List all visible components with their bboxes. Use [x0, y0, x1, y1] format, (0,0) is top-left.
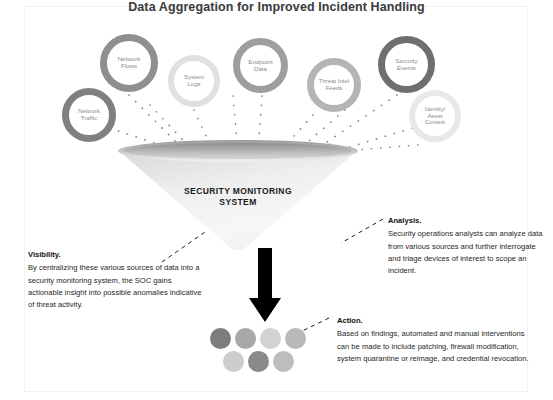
source-label: Endpoint Data	[246, 59, 274, 73]
callout-action-head: Action.	[337, 315, 537, 327]
callout-analysis-body: Security operations analysts can analyze…	[388, 228, 546, 277]
outcome-dot	[210, 328, 231, 349]
callout-action: Action. Based on findings, automated and…	[337, 315, 537, 365]
source-label: Threat Intel Feeds	[317, 78, 351, 91]
source-label: Network Flows	[116, 56, 143, 70]
source-label: Security Events	[393, 58, 419, 72]
funnel-rim-inner	[124, 143, 352, 159]
funnel-rim	[118, 140, 358, 162]
callout-action-body: Based on findings, automated and manual …	[337, 328, 537, 365]
source-circle-security-events[interactable]: Security Events	[378, 36, 435, 93]
output-arrow-icon	[247, 248, 283, 322]
outcome-dot	[235, 328, 256, 349]
page-title: Data Aggregation for Improved Incident H…	[0, 0, 553, 14]
source-circle-identity-asset-context[interactable]: Identity/ Asset Context	[409, 90, 461, 142]
outcome-dot	[285, 328, 306, 349]
source-circle-network-flows[interactable]: Network Flows	[100, 34, 158, 92]
funnel-label-line1: SECURITY MONITORING	[118, 186, 358, 197]
callout-visibility: Visibility. By centralizing these variou…	[28, 249, 206, 311]
source-label: System Logs	[182, 74, 206, 87]
source-circle-threat-intel-feeds[interactable]: Threat Intel Feeds	[307, 58, 361, 112]
funnel-label: SECURITY MONITORING SYSTEM	[118, 186, 358, 209]
callout-visibility-head: Visibility.	[28, 249, 206, 261]
outcome-dot	[273, 351, 294, 372]
arrow-stem	[258, 248, 272, 300]
source-circle-endpoint-data[interactable]: Endpoint Data	[233, 38, 288, 93]
arrow-head	[249, 298, 281, 322]
outcome-dot-cluster	[210, 328, 310, 374]
diagram-canvas: Data Aggregation for Improved Incident H…	[0, 0, 553, 400]
outcome-dot	[248, 351, 269, 372]
source-label: Identity/ Asset Context	[423, 106, 447, 125]
outcome-dot	[260, 328, 281, 349]
outcome-dot	[223, 351, 244, 372]
source-circle-network-traffic[interactable]: Network Traffic	[62, 88, 116, 142]
callout-analysis-head: Analysis.	[388, 215, 546, 227]
funnel-graphic: SECURITY MONITORING SYSTEM	[118, 140, 358, 250]
source-label: Network Traffic	[76, 108, 102, 121]
funnel-label-line2: SYSTEM	[118, 197, 358, 208]
source-circle-system-logs[interactable]: System Logs	[168, 55, 220, 107]
callout-analysis: Analysis. Security operations analysts c…	[388, 215, 546, 277]
callout-visibility-body: By centralizing these various sources of…	[28, 262, 206, 311]
